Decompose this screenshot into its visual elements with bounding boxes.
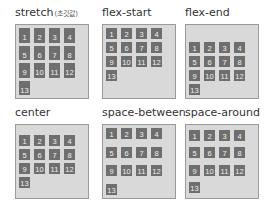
flex-item: 6 [121, 147, 132, 158]
panel-label: space-between [102, 106, 186, 120]
flex-item: 10 [204, 70, 215, 81]
flex-item: 10 [34, 63, 45, 78]
panel-label: flex-end [185, 6, 230, 20]
flex-item: 10 [204, 165, 215, 176]
flex-item: 1 [19, 135, 30, 146]
flex-item: 13 [189, 182, 200, 193]
flex-item: 2 [34, 28, 45, 43]
flex-item: 4 [234, 130, 245, 141]
flex-container: 12345678910111213 [15, 24, 89, 99]
flex-item: 4 [64, 28, 75, 43]
flex-item: 2 [34, 135, 45, 146]
flex-item: 11 [136, 165, 147, 176]
flex-item: 12 [151, 165, 162, 176]
flex-item: 6 [34, 46, 45, 61]
panel-label: stretch(초깃값) [15, 6, 78, 21]
flex-item: 8 [151, 147, 162, 158]
flex-item: 6 [121, 42, 132, 53]
flex-item: 12 [234, 70, 245, 81]
flex-item: 8 [234, 56, 245, 67]
flex-item: 4 [64, 135, 75, 146]
flex-item: 11 [136, 56, 147, 67]
flex-item: 12 [234, 165, 245, 176]
panel-label: center [15, 106, 50, 120]
flex-item: 9 [106, 165, 117, 176]
flex-item: 7 [136, 42, 147, 53]
flex-item: 6 [204, 147, 215, 158]
flex-item: 3 [219, 42, 230, 53]
flex-item: 10 [121, 56, 132, 67]
flex-container: 12345678910111213 [185, 124, 259, 199]
flex-item: 7 [219, 56, 230, 67]
flex-container: 12345678910111213 [185, 24, 259, 99]
flex-item: 1 [106, 28, 117, 39]
flex-item: 10 [121, 165, 132, 176]
flex-item: 13 [19, 81, 30, 96]
flex-item: 7 [49, 149, 60, 160]
flex-item: 7 [49, 46, 60, 61]
flex-item: 2 [204, 130, 215, 141]
flex-item: 5 [189, 56, 200, 67]
flex-item: 1 [189, 42, 200, 53]
flex-item: 3 [136, 28, 147, 39]
flex-item: 10 [34, 163, 45, 174]
flex-item: 11 [49, 63, 60, 78]
flex-item: 13 [189, 84, 200, 95]
flex-item: 8 [64, 46, 75, 61]
flex-item: 3 [219, 130, 230, 141]
flex-item: 1 [106, 128, 117, 139]
flex-item: 8 [234, 147, 245, 158]
flex-item: 1 [19, 28, 30, 43]
flex-container: 12345678910111213 [102, 24, 176, 99]
flex-item: 9 [19, 163, 30, 174]
flex-item: 11 [49, 163, 60, 174]
flex-item: 12 [151, 56, 162, 67]
flex-item: 8 [151, 42, 162, 53]
flex-item: 13 [106, 70, 117, 81]
flex-item: 3 [136, 128, 147, 139]
flex-container: 12345678910111213 [102, 124, 176, 199]
flex-item: 5 [19, 46, 30, 61]
flex-item: 7 [136, 147, 147, 158]
flex-item: 1 [189, 130, 200, 141]
flex-item: 2 [121, 128, 132, 139]
flex-item: 5 [106, 42, 117, 53]
flex-item: 4 [151, 28, 162, 39]
panel-label: flex-start [102, 6, 152, 20]
flex-container: 12345678910111213 [15, 124, 89, 199]
flex-item: 13 [106, 184, 117, 195]
flex-item: 6 [204, 56, 215, 67]
flex-item: 11 [219, 165, 230, 176]
flex-item: 3 [49, 28, 60, 43]
flex-item: 2 [204, 42, 215, 53]
flex-item: 4 [234, 42, 245, 53]
flex-item: 2 [121, 28, 132, 39]
flex-item: 11 [219, 70, 230, 81]
flex-item: 5 [189, 147, 200, 158]
flex-item: 3 [49, 135, 60, 146]
flex-item: 12 [64, 163, 75, 174]
flex-item: 6 [34, 149, 45, 160]
flex-item: 9 [106, 56, 117, 67]
flex-item: 5 [19, 149, 30, 160]
flex-item: 8 [64, 149, 75, 160]
flex-item: 9 [189, 165, 200, 176]
flex-item: 9 [19, 63, 30, 78]
flex-item: 7 [219, 147, 230, 158]
flex-item: 4 [151, 128, 162, 139]
flex-item: 12 [64, 63, 75, 78]
panel-label: space-around [185, 106, 260, 120]
flex-item: 9 [189, 70, 200, 81]
flex-item: 13 [19, 177, 30, 188]
flex-item: 5 [106, 147, 117, 158]
